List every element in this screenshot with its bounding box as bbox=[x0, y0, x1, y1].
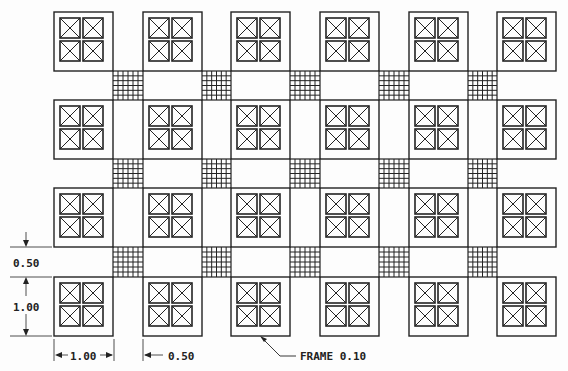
arrow-icon bbox=[144, 352, 151, 358]
drawing-canvas bbox=[0, 0, 568, 371]
arrow-icon bbox=[23, 277, 29, 284]
frame-callout-label: FRAME 0.10 bbox=[300, 350, 366, 363]
arrow-icon bbox=[55, 352, 62, 358]
arrow-icon bbox=[23, 240, 29, 247]
dim-horizontal-gap-label: 0.50 bbox=[168, 350, 195, 363]
arrow-icon bbox=[106, 352, 113, 358]
arrow-icon bbox=[23, 329, 29, 336]
dim-vertical-gap-label: 0.50 bbox=[13, 257, 40, 270]
dim-vertical-block-label: 1.00 bbox=[13, 301, 40, 314]
leader-line bbox=[262, 338, 296, 356]
arrow-icon bbox=[260, 336, 267, 342]
dim-horizontal-block-label: 1.00 bbox=[70, 350, 97, 363]
